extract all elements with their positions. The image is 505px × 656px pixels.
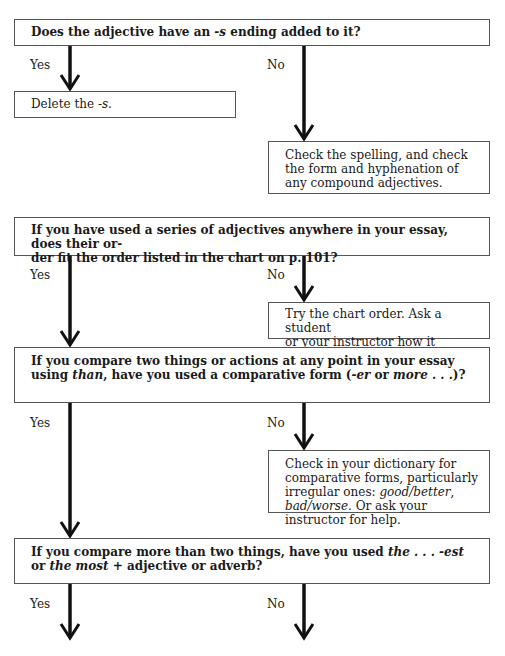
question-emphasis: more . . . [393, 368, 453, 382]
action-text: , [451, 485, 455, 499]
yes-label-3: Yes [30, 416, 50, 430]
question-box-2: If you have used a series of adjectives … [14, 217, 490, 256]
question-emphasis: than [72, 368, 103, 382]
yes-label-2: Yes [30, 268, 50, 282]
question-box-1: Does the adjective have an -s ending add… [14, 19, 490, 46]
no-label-4: No [267, 597, 285, 611]
action-emphasis: -s. [98, 97, 112, 111]
yes-label-4: Yes [30, 597, 50, 611]
question-text: If you have used a series of adjectives … [31, 223, 479, 251]
no-action-box-2: Try the chart order. Ask a student or yo… [268, 302, 490, 339]
question-box-4: If you compare more than two things, hav… [14, 538, 490, 584]
question-emphasis: the most [50, 559, 109, 573]
action-text: Delete the [31, 97, 98, 111]
question-emphasis: the . . . -est [388, 545, 464, 559]
question-emphasis: -s [214, 25, 226, 39]
yes-label-1: Yes [30, 58, 50, 72]
question-text: ending added to it? [226, 25, 360, 39]
no-action-box-1: Check the spelling, and check the form a… [268, 141, 490, 194]
question-text: or [370, 368, 393, 382]
question-box-3: If you compare two things or actions at … [14, 347, 490, 403]
no-label-3: No [267, 416, 285, 430]
question-text: )? [453, 368, 466, 382]
action-emphasis: good/better [379, 485, 450, 499]
action-text: Try the chart order. Ask a student [285, 307, 479, 335]
action-text: Check the spelling, and check the form a… [285, 148, 468, 190]
no-action-box-3: Check in your dictionary for comparative… [268, 450, 490, 513]
no-label-2: No [267, 268, 285, 282]
question-emphasis: -er [351, 368, 370, 382]
question-text: , have you used a comparative form ( [103, 368, 351, 382]
question-text: or [31, 559, 50, 573]
question-text: + adjective or adverb? [109, 559, 263, 573]
question-text: der fit the order listed in the chart on… [31, 251, 479, 265]
question-text: If you compare more than two things, hav… [31, 545, 388, 559]
action-emphasis: bad/worse. [285, 499, 352, 513]
question-text: Does the adjective have an [31, 25, 214, 39]
yes-action-box-1: Delete the -s. [14, 91, 236, 118]
no-label-1: No [267, 58, 285, 72]
